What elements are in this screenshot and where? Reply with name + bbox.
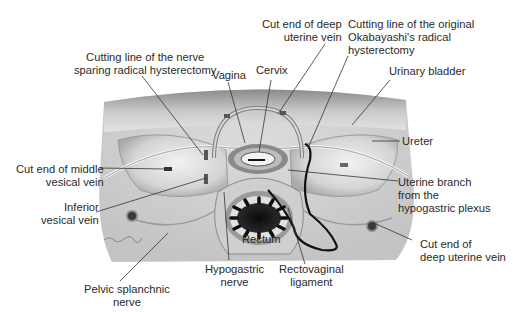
label-ureter: Ureter [402,135,433,148]
label-cervix: Cervix [256,64,288,77]
label-uterine-branch: Uterine branch from the hypogastric plex… [398,176,491,215]
label-cutting-line-okabayashi: Cutting line of the original Okabayashi'… [348,18,474,57]
label-cutting-line-nerve-sparing: Cutting line of the nerve sparing radica… [74,51,216,77]
label-inferior-vesical-vein: Inferior vesical vein [41,201,99,227]
label-cut-end-deep-uterine-vein-top: Cut end of deep uterine vein [262,18,342,44]
label-cut-end-middle-vesical-vein: Cut end of middle vesical vein [16,163,104,189]
label-hypogastric-nerve: Hypogastric nerve [205,263,264,289]
label-rectovaginal-ligament: Rectovaginal ligament [279,263,344,289]
label-cut-end-deep-uterine-vein-bottom: Cut end of deep uterine vein [420,238,506,264]
label-urinary-bladder: Urinary bladder [389,65,465,78]
label-rectum: Rectum [242,233,281,246]
label-pelvic-splanchnic-nerve: Pelvic splanchnic nerve [84,283,170,309]
label-vagina: Vagina [212,69,246,82]
